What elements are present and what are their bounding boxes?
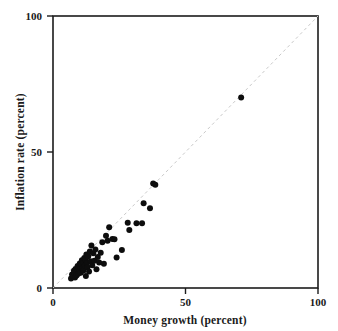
data-point	[98, 250, 104, 256]
data-point	[111, 236, 117, 242]
y-tick-label-100: 100	[26, 10, 43, 22]
x-axis-title: Money growth (percent)	[123, 314, 246, 327]
y-tick-label-50: 50	[31, 146, 43, 158]
data-point	[99, 239, 105, 245]
data-point	[106, 224, 112, 230]
data-point	[126, 227, 132, 233]
y-axis-title: Inflation rate (percent)	[14, 93, 27, 211]
data-point	[133, 220, 139, 226]
data-point	[152, 182, 158, 188]
data-point	[125, 220, 131, 226]
chart-figure: 100 50 0 0 50 100 Money growth (percent)…	[0, 0, 338, 331]
data-point	[147, 205, 153, 211]
data-point	[92, 246, 98, 252]
data-point	[86, 268, 92, 274]
y-axis-ticks	[47, 16, 53, 288]
scatter-plot: 100 50 0 0 50 100 Money growth (percent)…	[0, 0, 338, 331]
data-point	[119, 247, 125, 253]
x-tick-label-0: 0	[50, 296, 56, 308]
x-tick-label-50: 50	[180, 296, 192, 308]
data-point	[93, 266, 99, 272]
x-tick-label-100: 100	[310, 296, 327, 308]
data-point	[101, 261, 107, 267]
data-point	[141, 200, 147, 206]
data-point	[114, 255, 120, 261]
data-point	[238, 95, 244, 101]
data-point	[139, 220, 145, 226]
x-axis-ticks	[53, 288, 318, 294]
data-points-layer	[68, 95, 244, 282]
y-tick-label-0: 0	[37, 282, 43, 294]
